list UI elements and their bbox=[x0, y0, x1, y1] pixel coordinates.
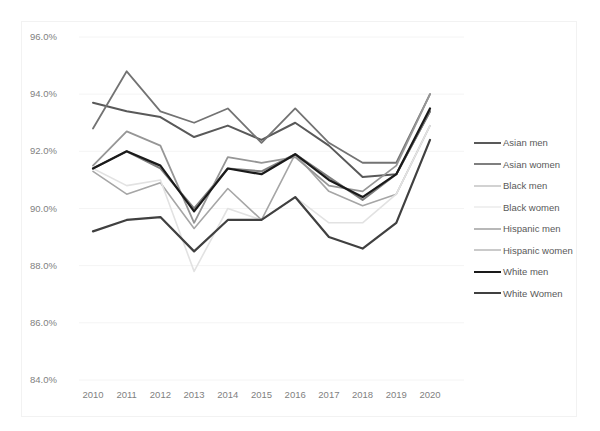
y-axis-tick: 94.0% bbox=[30, 89, 76, 99]
series-line bbox=[93, 71, 430, 162]
series-line bbox=[93, 103, 430, 177]
legend-item[interactable]: Hispanic women bbox=[474, 240, 594, 262]
legend-item[interactable]: Asian women bbox=[474, 154, 594, 176]
gridlines bbox=[79, 37, 464, 380]
series-line bbox=[93, 126, 430, 272]
y-axis-tick: 90.0% bbox=[30, 204, 76, 214]
x-axis-tick-label: 2020 bbox=[410, 389, 450, 401]
legend-item-label: Black men bbox=[501, 180, 547, 191]
legend-item-label: Asian women bbox=[501, 159, 560, 170]
legend-item[interactable]: Black women bbox=[474, 197, 594, 219]
y-axis-tick: 88.0% bbox=[30, 261, 76, 271]
legend-item[interactable]: Black men bbox=[474, 175, 594, 197]
legend-line-icon bbox=[474, 202, 501, 212]
y-axis-tick: 96.0% bbox=[30, 32, 76, 42]
legend-item[interactable]: Hispanic men bbox=[474, 218, 594, 240]
legend-line-icon bbox=[474, 245, 501, 255]
legend-line-icon bbox=[474, 288, 501, 298]
y-axis-tick-label: 92.0% bbox=[30, 146, 76, 156]
y-axis-tick-label: 96.0% bbox=[30, 32, 76, 42]
legend-line-icon bbox=[474, 138, 501, 148]
legend-item-label: Asian men bbox=[501, 137, 548, 148]
series-line bbox=[93, 140, 430, 251]
legend-item-label: White men bbox=[501, 266, 548, 277]
legend-line-icon bbox=[474, 181, 501, 191]
series-lines bbox=[93, 71, 430, 271]
series-line bbox=[93, 126, 430, 229]
y-axis-tick-label: 84.0% bbox=[30, 375, 76, 385]
y-axis-tick-label: 90.0% bbox=[30, 204, 76, 214]
legend-item[interactable]: White men bbox=[474, 261, 594, 283]
y-axis-tick-label: 88.0% bbox=[30, 261, 76, 271]
series-line bbox=[93, 111, 430, 208]
legend-item-label: White Women bbox=[501, 288, 562, 299]
chart-container: 96.0%94.0%92.0%90.0%88.0%86.0%84.0% 2010… bbox=[0, 0, 600, 431]
legend-item-label: Hispanic men bbox=[501, 223, 561, 234]
legend-item[interactable]: White Women bbox=[474, 283, 594, 305]
y-axis-tick: 92.0% bbox=[30, 146, 76, 156]
y-axis-tick: 86.0% bbox=[30, 318, 76, 328]
x-axis-tick: 2020 bbox=[410, 389, 450, 401]
legend-item-label: Black women bbox=[501, 202, 560, 213]
y-axis-tick: 84.0% bbox=[30, 375, 76, 385]
legend-line-icon bbox=[474, 267, 501, 277]
legend-item[interactable]: Asian men bbox=[474, 132, 594, 154]
legend-item-label: Hispanic women bbox=[501, 245, 573, 256]
chart-legend: Asian menAsian womenBlack menBlack women… bbox=[474, 132, 594, 304]
legend-line-icon bbox=[474, 159, 501, 169]
legend-line-icon bbox=[474, 224, 501, 234]
y-axis-tick-label: 86.0% bbox=[30, 318, 76, 328]
y-axis-tick-label: 94.0% bbox=[30, 89, 76, 99]
